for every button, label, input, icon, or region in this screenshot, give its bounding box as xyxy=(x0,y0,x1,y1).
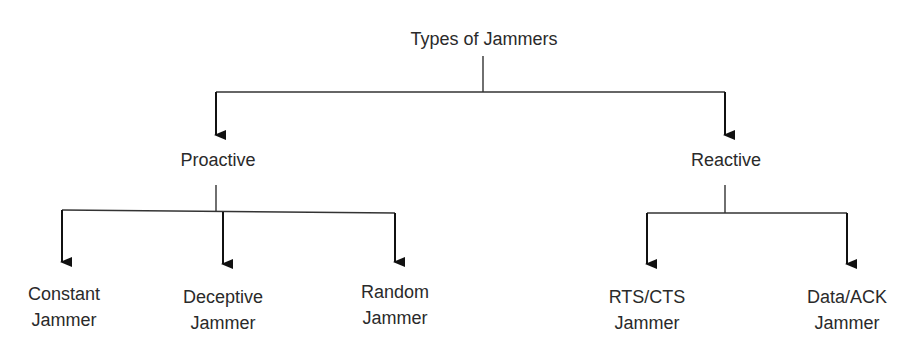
reactive-node: Reactive xyxy=(691,147,761,173)
dataack-jammer-node: Data/ACK Jammer xyxy=(807,284,887,336)
random-jammer-node: Random Jammer xyxy=(361,279,429,331)
root-node: Types of Jammers xyxy=(410,26,557,52)
deceptive-jammer-line2: Jammer xyxy=(183,310,263,336)
root-label: Types of Jammers xyxy=(410,26,557,52)
constant-jammer-line2: Jammer xyxy=(28,307,100,333)
rtscts-jammer-line1: RTS/CTS xyxy=(609,284,686,310)
dataack-jammer-line2: Jammer xyxy=(807,310,887,336)
random-jammer-line1: Random xyxy=(361,279,429,305)
proactive-branch-line xyxy=(62,210,395,213)
proactive-node: Proactive xyxy=(180,147,255,173)
rtscts-jammer-line2: Jammer xyxy=(609,310,686,336)
constant-jammer-line1: Constant xyxy=(28,281,100,307)
proactive-label: Proactive xyxy=(180,147,255,173)
reactive-label: Reactive xyxy=(691,147,761,173)
rtscts-jammer-node: RTS/CTS Jammer xyxy=(609,284,686,336)
deceptive-jammer-node: Deceptive Jammer xyxy=(183,284,263,336)
random-jammer-line2: Jammer xyxy=(361,305,429,331)
connector-lines xyxy=(0,0,920,355)
deceptive-jammer-line1: Deceptive xyxy=(183,284,263,310)
dataack-jammer-line1: Data/ACK xyxy=(807,284,887,310)
constant-jammer-node: Constant Jammer xyxy=(28,281,100,333)
